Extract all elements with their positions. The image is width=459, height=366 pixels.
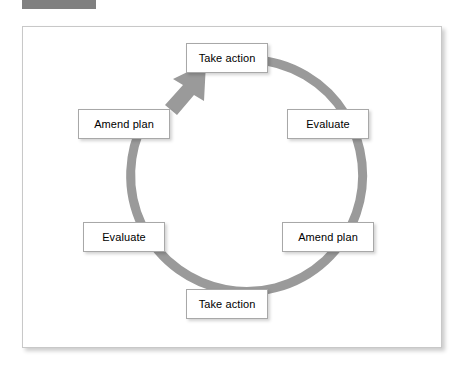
cycle-node-take-action-top[interactable]: Take action <box>186 43 268 73</box>
redacted-header-bar <box>22 0 96 9</box>
cycle-ring-arc <box>131 59 363 291</box>
cycle-node-label: Take action <box>199 299 256 310</box>
cycle-node-label: Amend plan <box>94 119 154 130</box>
cycle-node-label: Amend plan <box>298 232 358 243</box>
cycle-node-label: Evaluate <box>102 232 146 243</box>
cycle-node-label: Evaluate <box>306 119 350 130</box>
cycle-node-take-action-bottom[interactable]: Take action <box>186 289 268 319</box>
cycle-diagram: Take action Evaluate Amend plan Take act… <box>23 27 443 349</box>
figure-panel: Take action Evaluate Amend plan Take act… <box>22 26 442 348</box>
cycle-node-label: Take action <box>199 53 256 64</box>
cycle-node-amend-plan-left[interactable]: Amend plan <box>78 109 170 139</box>
cycle-node-evaluate-right[interactable]: Evaluate <box>287 109 369 139</box>
cycle-node-evaluate-left[interactable]: Evaluate <box>83 222 165 252</box>
cycle-node-amend-plan-right[interactable]: Amend plan <box>282 222 374 252</box>
